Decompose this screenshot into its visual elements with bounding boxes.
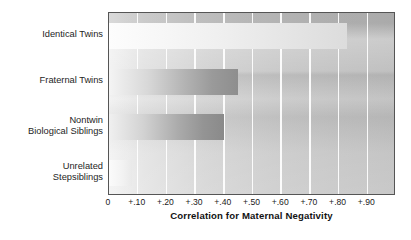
x-axis-tick-label: +.50 bbox=[243, 196, 260, 208]
x-axis-tick-label: +.40 bbox=[214, 196, 231, 208]
bar-chart-figure: Identical TwinsFraternal TwinsNontwin Bi… bbox=[0, 0, 411, 240]
bar bbox=[109, 69, 238, 95]
y-axis-category-labels: Identical TwinsFraternal TwinsNontwin Bi… bbox=[0, 12, 103, 195]
plot-area bbox=[108, 12, 395, 195]
x-axis-tick-label: +.60 bbox=[272, 196, 289, 208]
y-axis-category-label: Nontwin Biological Siblings bbox=[0, 115, 103, 137]
x-axis-tick-labels: 0+.10+.20+.30+.40+.50+.60+.70+.80+.90 bbox=[108, 196, 395, 210]
y-axis-category-label: Fraternal Twins bbox=[0, 75, 103, 86]
x-axis-tick-label: 0 bbox=[106, 196, 111, 208]
gridline bbox=[367, 13, 369, 194]
x-axis-tick-label: +.80 bbox=[329, 196, 346, 208]
x-axis-tick-label: +.20 bbox=[157, 196, 174, 208]
x-axis-tick-label: +.30 bbox=[186, 196, 203, 208]
x-axis-tick-label: +.10 bbox=[128, 196, 145, 208]
x-axis-tick-label: +.90 bbox=[358, 196, 375, 208]
x-axis-title: Correlation for Maternal Negativity bbox=[108, 210, 395, 221]
bar bbox=[109, 114, 224, 140]
y-axis-category-label: Identical Twins bbox=[0, 29, 103, 40]
y-axis-category-label: Unrelated Stepsiblings bbox=[0, 161, 103, 183]
bar bbox=[109, 160, 132, 186]
bar bbox=[109, 23, 347, 49]
x-axis-tick-label: +.70 bbox=[300, 196, 317, 208]
